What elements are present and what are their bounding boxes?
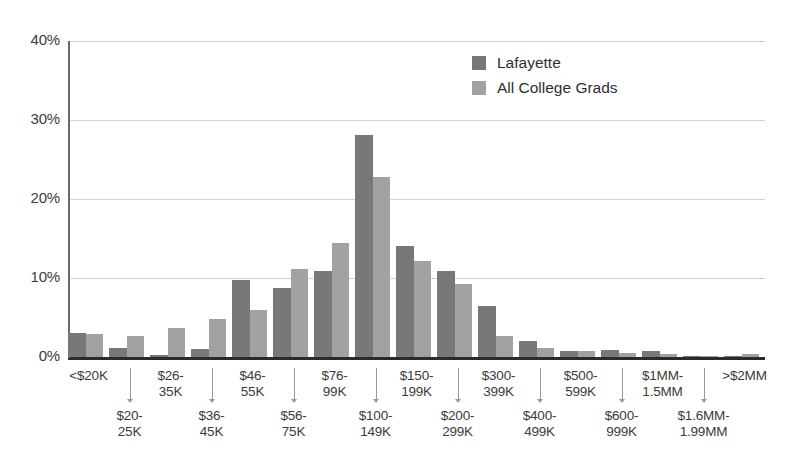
bar bbox=[373, 177, 391, 357]
bar bbox=[332, 243, 350, 357]
bar bbox=[86, 334, 104, 357]
legend-swatch-icon bbox=[472, 56, 486, 70]
bar-group bbox=[683, 41, 724, 357]
y-tick-label: 20% bbox=[14, 189, 60, 206]
bar bbox=[68, 333, 86, 357]
bar bbox=[519, 341, 537, 357]
bar-group bbox=[109, 41, 150, 357]
x-tick-label: <$20K bbox=[43, 368, 135, 384]
bar-chart: 0%10%20%30%40% LafayetteAll College Grad… bbox=[0, 0, 793, 474]
bar bbox=[355, 135, 373, 357]
bar bbox=[150, 355, 168, 357]
bar bbox=[560, 351, 578, 357]
bar bbox=[601, 350, 619, 357]
bar bbox=[191, 349, 209, 357]
bar bbox=[127, 336, 145, 357]
bar bbox=[642, 351, 660, 357]
x-axis-tick-labels: <$20K$20- 25K$26- 35K$36- 45K$46- 55K$56… bbox=[68, 360, 765, 472]
bar bbox=[437, 271, 455, 357]
bar-group bbox=[355, 41, 396, 357]
x-tick-label: $1.6MM- 1.99MM bbox=[658, 408, 750, 439]
chart-legend: LafayetteAll College Grads bbox=[472, 54, 618, 97]
bar-group bbox=[232, 41, 273, 357]
bar bbox=[701, 356, 719, 357]
bar-group bbox=[68, 41, 109, 357]
bar bbox=[291, 269, 309, 357]
legend-item[interactable]: Lafayette bbox=[472, 54, 618, 72]
x-tick-label: $150- 199K bbox=[371, 368, 463, 399]
legend-label: Lafayette bbox=[497, 54, 561, 72]
x-tick-label: $36- 45K bbox=[166, 408, 258, 439]
bar bbox=[455, 284, 473, 357]
bar bbox=[683, 356, 701, 357]
bar bbox=[414, 261, 432, 357]
legend-item[interactable]: All College Grads bbox=[472, 79, 618, 97]
bar bbox=[314, 271, 332, 357]
bar bbox=[537, 348, 555, 357]
bar bbox=[168, 328, 186, 357]
bar bbox=[232, 280, 250, 357]
bar-group bbox=[642, 41, 683, 357]
bar-group bbox=[314, 41, 355, 357]
x-tick-label: $56- 75K bbox=[248, 408, 340, 439]
x-tick-label: $100- 149K bbox=[330, 408, 422, 439]
bar bbox=[209, 319, 227, 357]
bar bbox=[619, 353, 637, 357]
x-tick-label: $20- 25K bbox=[84, 408, 176, 439]
x-tick-label: $200- 299K bbox=[412, 408, 504, 439]
x-tick-label: $26- 35K bbox=[125, 368, 217, 399]
x-tick-label: $600- 999K bbox=[576, 408, 668, 439]
bar bbox=[396, 246, 414, 357]
y-tick-label: 10% bbox=[14, 268, 60, 285]
y-tick-label: 0% bbox=[14, 347, 60, 364]
bar-group bbox=[724, 41, 765, 357]
bar bbox=[724, 356, 742, 357]
bar bbox=[496, 336, 514, 357]
x-tick-label: $400- 499K bbox=[494, 408, 586, 439]
legend-label: All College Grads bbox=[497, 79, 618, 97]
bar bbox=[660, 354, 678, 357]
y-tick-label: 30% bbox=[14, 110, 60, 127]
bar bbox=[742, 354, 760, 357]
x-tick-label: $300- 399K bbox=[453, 368, 545, 399]
x-tick-label: $1MM- 1.5MM bbox=[617, 368, 709, 399]
bar-group bbox=[396, 41, 437, 357]
x-tick-label: >$2MM bbox=[699, 368, 791, 384]
y-tick-label: 40% bbox=[14, 31, 60, 48]
legend-swatch-icon bbox=[472, 81, 486, 95]
x-tick-label: $76- 99K bbox=[289, 368, 381, 399]
bar bbox=[109, 348, 127, 357]
x-tick-label: $500- 599K bbox=[535, 368, 627, 399]
bar bbox=[578, 351, 596, 357]
bar bbox=[273, 288, 291, 357]
bar-groups bbox=[68, 41, 765, 357]
bar-group bbox=[191, 41, 232, 357]
bar-group bbox=[273, 41, 314, 357]
bar bbox=[478, 306, 496, 357]
bar bbox=[250, 310, 268, 357]
bar-group bbox=[150, 41, 191, 357]
x-tick-label: $46- 55K bbox=[207, 368, 299, 399]
